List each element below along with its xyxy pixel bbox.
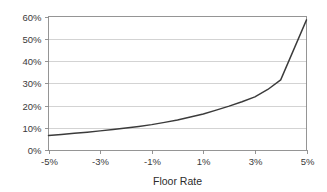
y-axis-tick-label: 10% — [22, 123, 42, 134]
line-chart: 0%10%20%30%40%50%60% -5%-3%-1%1%3%5% Flo… — [0, 0, 327, 192]
x-axis-title: Floor Rate — [153, 175, 202, 187]
y-axis-tick-label: 30% — [22, 78, 42, 89]
x-axis-tick-label: 1% — [197, 156, 211, 167]
y-axis-tick-label: 40% — [22, 56, 42, 67]
y-axis-tick-label: 0% — [28, 145, 42, 156]
x-axis-tick-label: -5% — [41, 156, 58, 167]
chart-container: 0%10%20%30%40%50%60% -5%-3%-1%1%3%5% Flo… — [0, 0, 327, 192]
y-axis-tick-label: 50% — [22, 34, 42, 45]
y-axis-tick-label: 20% — [22, 101, 42, 112]
x-axis-tick-label: -3% — [92, 156, 109, 167]
y-axis-tick-label: 60% — [22, 12, 42, 23]
x-axis-tick-label: -1% — [144, 156, 161, 167]
x-axis-tick-label: 5% — [301, 156, 315, 167]
x-axis-tick-label: 3% — [249, 156, 263, 167]
